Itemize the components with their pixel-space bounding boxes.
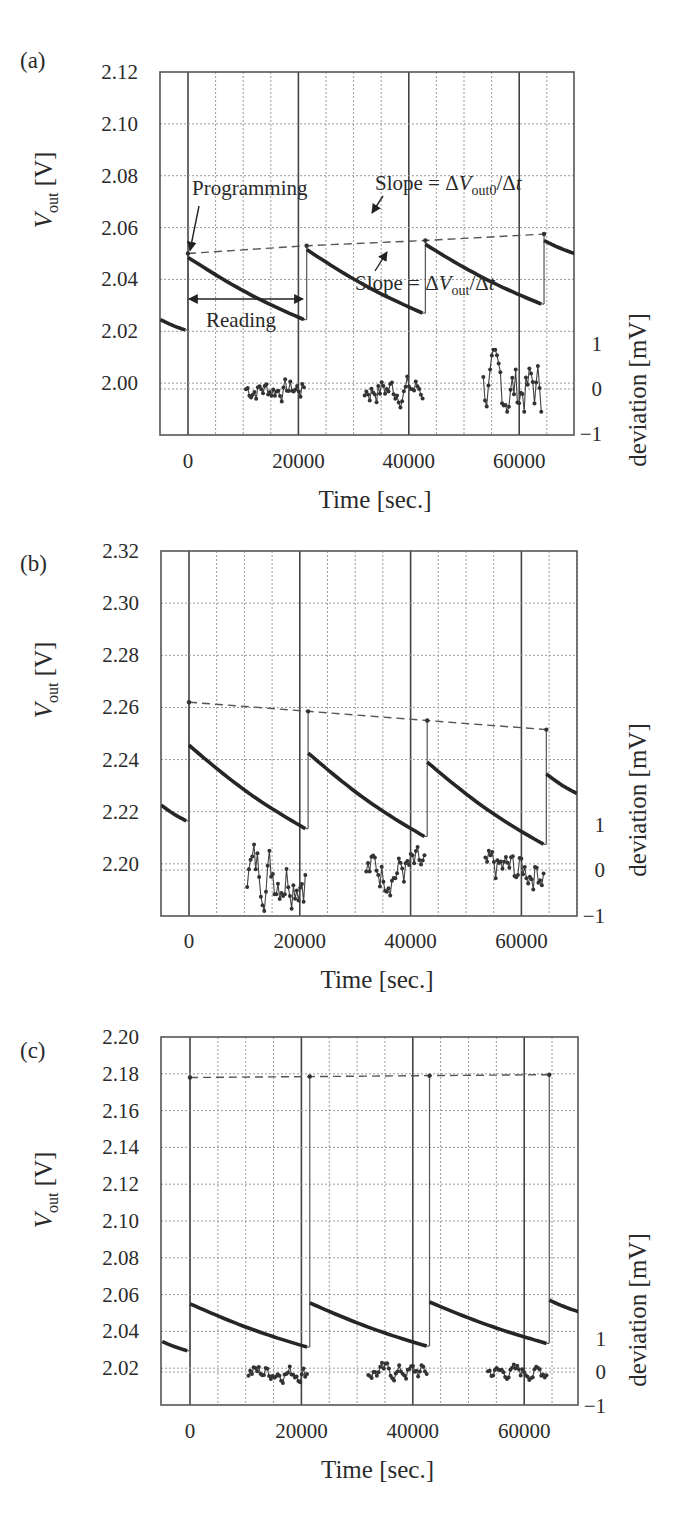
x-tick-label: 20000 bbox=[274, 929, 327, 953]
vout-reading-trace bbox=[427, 762, 543, 844]
panel-a: 2.002.022.042.062.082.102.1210−102000040… bbox=[20, 48, 651, 513]
y-tick-label: 2.12 bbox=[101, 60, 138, 84]
y-tick-label: 2.06 bbox=[101, 216, 138, 240]
vout0-dashed-line bbox=[188, 234, 544, 253]
y-tick-label: 2.10 bbox=[102, 1209, 139, 1233]
programmed-point bbox=[187, 700, 191, 704]
y-tick-label: 2.12 bbox=[102, 1172, 139, 1196]
y2-tick-label: −1 bbox=[584, 1394, 606, 1418]
panel-c: 2.022.042.062.082.102.122.142.162.182.20… bbox=[20, 1025, 651, 1483]
annotation-slope-vout0: Slope = ΔVout0/Δt bbox=[375, 171, 523, 198]
x-tick-label: 0 bbox=[185, 1419, 196, 1443]
y-tick-label: 2.04 bbox=[101, 267, 138, 291]
y2-axis-title: deviation [mV] bbox=[624, 313, 651, 466]
x-tick-label: 0 bbox=[183, 449, 194, 473]
y2-tick-label: −1 bbox=[583, 904, 605, 928]
y-axis-title: Vout [V] bbox=[30, 642, 61, 719]
vout-reading-trace bbox=[310, 1303, 427, 1346]
y-tick-label: 2.20 bbox=[102, 852, 139, 876]
vout-reading-trace bbox=[189, 745, 305, 829]
programmed-point bbox=[304, 244, 308, 248]
annotations: ProgrammingSlope = ΔVout0/ΔtSlope = ΔVou… bbox=[189, 171, 523, 332]
programmed-point bbox=[425, 718, 429, 722]
y-tick-label: 2.30 bbox=[102, 591, 139, 615]
programmed-point bbox=[542, 232, 546, 236]
y2-tick-label: 0 bbox=[596, 1360, 607, 1384]
programmed-point bbox=[306, 709, 310, 713]
x-tick-label: 60000 bbox=[495, 929, 548, 953]
programmed-point bbox=[427, 1073, 431, 1077]
panel-label: (a) bbox=[20, 48, 46, 73]
y2-tick-label: 1 bbox=[595, 813, 606, 837]
x-tick-label: 0 bbox=[184, 929, 195, 953]
y-tick-label: 2.10 bbox=[101, 112, 138, 136]
x-tick-label: 40000 bbox=[384, 929, 437, 953]
vout0-dashed-line bbox=[189, 702, 546, 729]
panel-label: (c) bbox=[20, 1038, 46, 1063]
vout0-dashed-line bbox=[190, 1075, 549, 1078]
y2-tick-label: 0 bbox=[595, 858, 606, 882]
programmed-point bbox=[308, 1074, 312, 1078]
vout-reading-trace bbox=[544, 241, 574, 254]
y-tick-label: 2.24 bbox=[102, 748, 139, 772]
vout-reading-trace bbox=[190, 1304, 307, 1347]
y2-tick-label: 1 bbox=[592, 332, 603, 356]
series-group bbox=[162, 1073, 580, 1385]
y-tick-label: 2.02 bbox=[102, 1356, 139, 1380]
y2-axis-title: deviation [mV] bbox=[624, 723, 651, 876]
y-tick-label: 2.08 bbox=[102, 1246, 139, 1270]
x-axis-title: Time [sec.] bbox=[321, 966, 434, 993]
annotation-slope-vout: Slope = ΔVout/Δt bbox=[355, 271, 496, 298]
x-tick-label: 60000 bbox=[498, 1419, 551, 1443]
y2-tick-label: 1 bbox=[596, 1327, 607, 1351]
x-axis-title: Time [sec.] bbox=[321, 1456, 434, 1483]
panel-label: (b) bbox=[20, 551, 47, 576]
y2-tick-label: −1 bbox=[580, 422, 602, 446]
y-tick-label: 2.04 bbox=[102, 1319, 139, 1343]
y-tick-label: 2.14 bbox=[102, 1135, 139, 1159]
y2-axis-title: deviation [mV] bbox=[624, 1233, 651, 1386]
vout-reading-trace bbox=[546, 774, 577, 794]
x-tick-label: 20000 bbox=[272, 449, 325, 473]
y-tick-label: 2.08 bbox=[101, 164, 138, 188]
x-tick-label: 40000 bbox=[387, 1419, 440, 1443]
vout-reading-trace bbox=[162, 1342, 187, 1351]
vout-reading-trace bbox=[308, 753, 424, 836]
y-tick-label: 2.18 bbox=[102, 1062, 139, 1086]
y-tick-label: 2.20 bbox=[102, 1025, 139, 1049]
vout-reading-trace bbox=[430, 1302, 547, 1343]
x-axis-title: Time [sec.] bbox=[319, 486, 432, 513]
programmed-point bbox=[423, 238, 427, 242]
y-axis-title: Vout [V] bbox=[30, 1152, 61, 1229]
programmed-point bbox=[186, 251, 190, 255]
y-tick-label: 2.16 bbox=[102, 1099, 139, 1123]
y-tick-label: 2.32 bbox=[102, 539, 139, 563]
annotation-reading: Reading bbox=[206, 308, 276, 332]
figure-canvas: 2.002.022.042.062.082.102.1210−102000040… bbox=[0, 0, 696, 1529]
y-tick-label: 2.02 bbox=[101, 319, 138, 343]
plot-frame bbox=[161, 551, 577, 916]
y-tick-label: 2.22 bbox=[102, 800, 139, 824]
y-tick-label: 2.26 bbox=[102, 695, 139, 719]
programmed-point bbox=[547, 1073, 551, 1077]
y-axis-title: Vout [V] bbox=[30, 152, 61, 229]
x-tick-label: 20000 bbox=[275, 1419, 328, 1443]
vout-reading-trace bbox=[549, 1300, 580, 1312]
vout-reading-trace bbox=[160, 320, 185, 330]
annotation-programming: Programming bbox=[192, 176, 308, 200]
programmed-point bbox=[544, 727, 548, 731]
y2-tick-label: 0 bbox=[592, 377, 603, 401]
series-group bbox=[161, 700, 577, 913]
y-tick-label: 2.28 bbox=[102, 643, 139, 667]
x-tick-label: 60000 bbox=[493, 449, 546, 473]
vout-reading-trace bbox=[161, 805, 186, 821]
panel-b: 2.202.222.242.262.282.302.3210−102000040… bbox=[20, 539, 651, 993]
x-tick-label: 40000 bbox=[383, 449, 436, 473]
y-tick-label: 2.06 bbox=[102, 1283, 139, 1307]
y-tick-label: 2.00 bbox=[101, 371, 138, 395]
programmed-point bbox=[188, 1075, 192, 1079]
